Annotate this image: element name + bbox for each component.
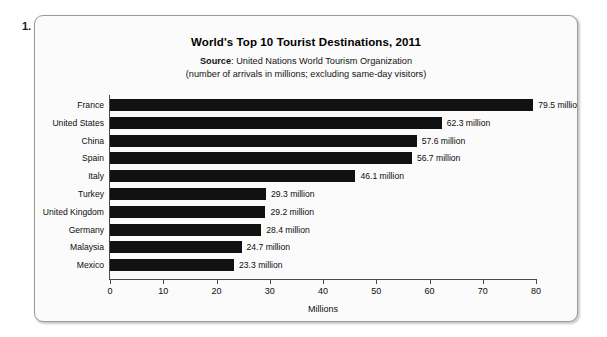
bar-row: Malaysia24.7 million (110, 241, 536, 253)
x-tick (536, 280, 537, 284)
bar-series: France79.5 millionUnited States62.3 mill… (110, 98, 536, 276)
bar (110, 224, 261, 236)
x-tick (163, 280, 164, 284)
bar-row: United States62.3 million (110, 117, 536, 129)
bar-value-label: 62.3 million (447, 118, 490, 128)
source-separator: : (231, 56, 234, 66)
bar (110, 117, 442, 129)
figure-page: 1. World's Top 10 Tourist Destinations, … (0, 0, 607, 337)
bar-row: Mexico23.3 million (110, 259, 536, 271)
bar-value-label: 28.4 million (266, 225, 309, 235)
bar-value-label: 46.1 million (360, 171, 403, 181)
source-text: United Nations World Tourism Organizatio… (236, 56, 412, 66)
bar (110, 99, 533, 111)
category-label: Turkey (78, 189, 104, 199)
x-tick (430, 280, 431, 284)
bar (110, 206, 265, 218)
source-prefix: Source (200, 56, 231, 66)
bar (110, 259, 234, 271)
item-number: 1. (22, 20, 31, 32)
x-axis-title: Millions (110, 304, 536, 314)
category-label: Malaysia (70, 242, 104, 252)
bar-value-label: 24.7 million (247, 242, 290, 252)
bar-row: China57.6 million (110, 135, 536, 147)
x-tick (270, 280, 271, 284)
category-label: United Kingdom (43, 207, 104, 217)
bar-value-label: 79.5 million (538, 100, 578, 110)
bar-row: Germany28.4 million (110, 224, 536, 236)
bar-value-label: 57.6 million (422, 136, 465, 146)
category-label: France (77, 100, 104, 110)
chart-subnote: (number of arrivals in millions; excludi… (35, 68, 577, 81)
x-tick-label: 30 (265, 286, 275, 296)
bar (110, 170, 355, 182)
chart-title: World's Top 10 Tourist Destinations, 201… (35, 35, 577, 49)
x-tick (110, 280, 111, 284)
x-tick (483, 280, 484, 284)
x-tick (376, 280, 377, 284)
x-tick-label: 10 (158, 286, 168, 296)
bar-row: Turkey29.3 million (110, 188, 536, 200)
chart-source: Source: United Nations World Tourism Org… (35, 55, 577, 68)
plot-area: France79.5 millionUnited States62.3 mill… (110, 98, 536, 276)
x-tick-label: 70 (478, 286, 488, 296)
x-tick-label: 20 (211, 286, 221, 296)
bar-row: Spain56.7 million (110, 152, 536, 164)
category-label: United States (52, 118, 104, 128)
bar-row: France79.5 million (110, 99, 536, 111)
bar-value-label: 56.7 million (417, 153, 460, 163)
x-tick-label: 0 (107, 286, 112, 296)
x-tick-label: 50 (371, 286, 381, 296)
bar-row: United Kingdom29.2 million (110, 206, 536, 218)
bar-row: Italy46.1 million (110, 170, 536, 182)
bar (110, 152, 412, 164)
category-label: China (82, 136, 104, 146)
bar (110, 135, 417, 147)
x-tick-label: 80 (531, 286, 541, 296)
x-tick-label: 60 (424, 286, 434, 296)
chart-header: World's Top 10 Tourist Destinations, 201… (35, 35, 577, 80)
bar (110, 241, 242, 253)
category-label: Italy (88, 171, 104, 181)
category-label: Mexico (77, 260, 104, 270)
x-tick-label: 40 (318, 286, 328, 296)
category-label: Germany (69, 225, 104, 235)
bar (110, 188, 266, 200)
category-label: Spain (82, 153, 104, 163)
bar-value-label: 23.3 million (239, 260, 282, 270)
x-tick (323, 280, 324, 284)
x-tick (217, 280, 218, 284)
bar-value-label: 29.3 million (271, 189, 314, 199)
chart-panel: World's Top 10 Tourist Destinations, 201… (34, 15, 578, 322)
bar-value-label: 29.2 million (270, 207, 313, 217)
